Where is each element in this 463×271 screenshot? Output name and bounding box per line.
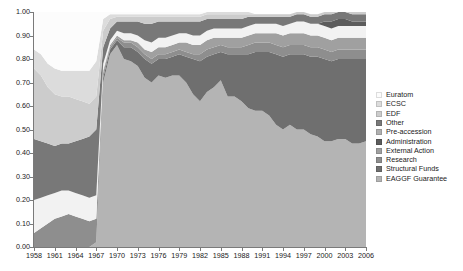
- y-tick-mark: [30, 153, 33, 154]
- y-tick-label: 0.50: [2, 126, 30, 134]
- legend-item: External Action: [376, 147, 462, 155]
- chart-root: 0.000.100.200.300.400.500.600.700.800.90…: [0, 0, 463, 271]
- y-tick-label: 0.90: [2, 32, 30, 40]
- y-tick-label: 0.10: [2, 220, 30, 228]
- y-tick-label: 1.00: [2, 8, 30, 16]
- y-tick-label: 0.70: [2, 79, 30, 87]
- legend-item-label: Other: [386, 119, 404, 127]
- x-tick-mark: [262, 248, 263, 251]
- y-tick-label: 0.80: [2, 55, 30, 63]
- legend-item: Research: [376, 156, 462, 164]
- legend-item-label: ECSC: [386, 100, 406, 108]
- x-tick-mark: [159, 248, 160, 251]
- x-tick-label: 2006: [353, 251, 379, 260]
- x-tick-mark: [138, 248, 139, 251]
- x-tick-mark: [283, 248, 284, 251]
- legend: EuratomECSCEDFOtherPre-accessionAdminist…: [376, 91, 462, 184]
- x-tick-mark: [117, 248, 118, 251]
- y-tick-label: 0.00: [2, 243, 30, 251]
- y-tick-mark: [30, 83, 33, 84]
- legend-swatch-icon: [376, 166, 382, 172]
- y-tick-mark: [30, 200, 33, 201]
- y-tick-mark: [30, 247, 33, 248]
- legend-item-label: EAGGF Guarantee: [386, 175, 447, 183]
- y-tick-mark: [30, 59, 33, 60]
- legend-swatch-icon: [376, 157, 382, 163]
- legend-item-label: Euratom: [386, 91, 413, 99]
- legend-swatch-icon: [376, 176, 382, 182]
- x-tick-mark: [221, 248, 222, 251]
- y-tick-mark: [30, 12, 33, 13]
- x-tick-mark: [34, 248, 35, 251]
- x-tick-mark: [55, 248, 56, 251]
- y-tick-mark: [30, 36, 33, 37]
- legend-swatch-icon: [376, 129, 382, 135]
- y-tick-label: 0.30: [2, 173, 30, 181]
- y-tick-mark: [30, 130, 33, 131]
- y-tick-mark: [30, 177, 33, 178]
- x-tick-mark: [325, 248, 326, 251]
- x-tick-mark: [304, 248, 305, 251]
- legend-swatch-icon: [376, 111, 382, 117]
- legend-item-label: Administration: [386, 138, 432, 146]
- legend-item: Other: [376, 119, 462, 127]
- legend-item: Euratom: [376, 91, 462, 99]
- x-tick-mark: [179, 248, 180, 251]
- y-tick-label: 0.60: [2, 102, 30, 110]
- legend-swatch-icon: [376, 148, 382, 154]
- x-tick-mark: [76, 248, 77, 251]
- y-tick-mark: [30, 224, 33, 225]
- legend-item-label: EDF: [386, 110, 400, 118]
- stacked-area-series: [34, 12, 366, 247]
- legend-item: Administration: [376, 137, 462, 145]
- legend-item-label: External Action: [386, 147, 434, 155]
- legend-item: EAGGF Guarantee: [376, 175, 462, 183]
- legend-item-label: Structural Funds: [386, 165, 439, 173]
- x-tick-mark: [345, 248, 346, 251]
- x-axis-labels: 1958196119641967197019731976197919821985…: [0, 251, 400, 265]
- legend-swatch-icon: [376, 139, 382, 145]
- plot-area: [34, 12, 366, 247]
- x-tick-mark: [96, 248, 97, 251]
- legend-swatch-icon: [376, 101, 382, 107]
- legend-item-label: Pre-accession: [386, 128, 432, 136]
- x-tick-mark: [366, 248, 367, 251]
- legend-item: Structural Funds: [376, 165, 462, 173]
- legend-swatch-icon: [376, 92, 382, 98]
- legend-item: Pre-accession: [376, 128, 462, 136]
- y-axis-labels: 0.000.100.200.300.400.500.600.700.800.90…: [0, 0, 30, 260]
- legend-item: ECSC: [376, 100, 462, 108]
- legend-item-label: Research: [386, 156, 417, 164]
- y-tick-mark: [30, 106, 33, 107]
- y-tick-label: 0.40: [2, 149, 30, 157]
- legend-item: EDF: [376, 110, 462, 118]
- x-tick-mark: [200, 248, 201, 251]
- x-tick-mark: [242, 248, 243, 251]
- legend-swatch-icon: [376, 120, 382, 126]
- y-tick-label: 0.20: [2, 196, 30, 204]
